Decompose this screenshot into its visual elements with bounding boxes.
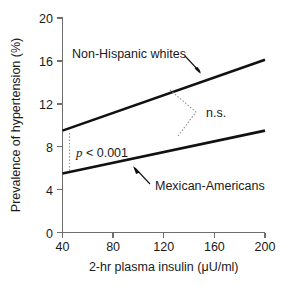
y-tick-label-16: 16 — [39, 55, 53, 69]
y-tick-label-4: 4 — [46, 184, 53, 198]
chart-figure: 20 16 12 8 4 0 40 80 120 160 200 2-hr pl… — [0, 0, 291, 291]
n-s-dotted-bracket — [170, 90, 196, 136]
y-axis: 20 16 12 8 4 0 — [39, 12, 62, 241]
p-value-text: < 0.001 — [83, 146, 129, 160]
callout-label-mexican-americans: Mexican-Americans — [155, 179, 265, 193]
x-axis-title: 2-hr plasma insulin (μU/ml) — [89, 260, 239, 274]
annotation-n-s: n.s. — [170, 90, 226, 136]
y-axis-title: Prevalence of hypertension (%) — [9, 38, 23, 212]
x-tick-label-200: 200 — [255, 240, 276, 254]
p-value-label: p < 0.001 — [75, 145, 128, 160]
callout-label-non-hispanic-whites: Non-Hispanic whites — [72, 47, 186, 61]
series-line-non-hispanic-whites — [63, 60, 266, 131]
n-s-label: n.s. — [206, 106, 226, 120]
x-axis: 40 80 120 160 200 — [56, 233, 276, 255]
x-tick-label-40: 40 — [56, 240, 70, 254]
y-tick-label-20: 20 — [39, 12, 53, 26]
callout-non-hispanic-whites: Non-Hispanic whites — [72, 47, 201, 74]
y-tick-label-0: 0 — [46, 227, 53, 241]
y-tick-label-8: 8 — [46, 141, 53, 155]
callout-mexican-americans: Mexican-Americans — [133, 166, 265, 193]
y-tick-label-12: 12 — [39, 98, 53, 112]
x-tick-label-160: 160 — [204, 240, 225, 254]
x-tick-label-80: 80 — [106, 240, 120, 254]
hypertension-insulin-line-chart: 20 16 12 8 4 0 40 80 120 160 200 2-hr pl… — [0, 0, 291, 291]
x-tick-label-120: 120 — [153, 240, 174, 254]
